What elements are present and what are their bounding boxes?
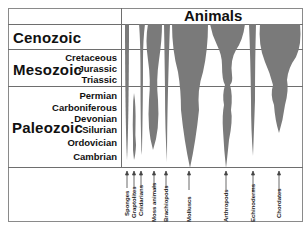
spindle-chordates [260,24,301,133]
spindle-brachiopods [164,24,170,162]
label-moss-animals: Moss animals [151,183,157,222]
spindle-graptolites [133,93,136,160]
spindle-arthropods [210,24,245,168]
spindle-echinoderms [249,24,256,156]
label-arthropods: Arthropods [223,189,229,222]
spindle-moss-animals [147,24,163,150]
spindle-cnidarians [139,24,145,155]
label-graptolites: Graptolites [131,186,137,218]
label-sponges: Sponges [124,191,130,216]
label-brachiopods: Brachiopods [163,185,169,222]
spindle-molluscs [172,24,208,168]
spindle-sponges [125,24,129,160]
label-molluscs: Molluscs [186,196,192,222]
label-chordates: Chordates [276,188,282,218]
label-cnidarians: Cnidarians [138,185,144,216]
label-echinoderms: Echinoderms [250,184,256,222]
